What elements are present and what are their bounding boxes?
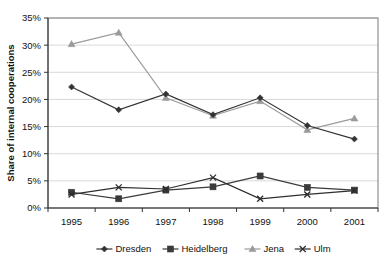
y-tick-label: 25%	[22, 67, 42, 78]
y-axis-tick-labels: 0%5%10%15%20%25%30%35%	[22, 12, 42, 213]
data-point-marker	[163, 91, 169, 97]
y-axis	[44, 18, 48, 208]
y-tick-label: 15%	[22, 121, 42, 132]
data-point-marker	[101, 246, 107, 252]
y-tick-label: 35%	[22, 12, 42, 23]
y-tick-label: 20%	[22, 94, 42, 105]
x-tick-label: 1995	[61, 216, 82, 227]
y-axis-title: Share of internal cooperations	[5, 44, 16, 181]
chart-container: 0%5%10%15%20%25%30%35% 19951996199719981…	[0, 0, 386, 268]
legend-label: Jena	[264, 243, 285, 254]
y-tick-label: 0%	[27, 202, 41, 213]
legend-item-ulm[interactable]: Ulm	[295, 243, 331, 254]
x-tick-label: 1996	[108, 216, 129, 227]
legend-label: Ulm	[314, 243, 331, 254]
y-tick-label: 5%	[27, 175, 41, 186]
legend-item-dresden[interactable]: Dresden	[96, 243, 151, 254]
x-tick-label: 2001	[344, 216, 365, 227]
data-point-marker	[168, 246, 174, 252]
data-point-marker	[351, 136, 357, 142]
legend-item-heidelberg[interactable]: Heidelberg	[163, 243, 228, 254]
data-point-marker	[257, 173, 263, 179]
y-tick-label: 10%	[22, 148, 42, 159]
data-point-marker	[210, 184, 216, 190]
x-tick-label: 1998	[202, 216, 223, 227]
data-point-marker	[351, 115, 358, 121]
x-axis	[48, 208, 378, 212]
y-tick-label: 30%	[22, 40, 42, 51]
x-tick-label: 1999	[250, 216, 271, 227]
x-axis-tick-labels: 1995199619971998199920002001	[61, 216, 365, 227]
legend-label: Dresden	[115, 243, 151, 254]
legend-label: Heidelberg	[182, 243, 228, 254]
data-point-marker	[304, 184, 310, 190]
data-series	[68, 29, 358, 202]
data-point-marker	[115, 29, 122, 35]
data-point-marker	[116, 107, 122, 113]
data-point-marker	[69, 84, 75, 90]
x-tick-label: 2000	[297, 216, 318, 227]
data-point-marker	[304, 122, 310, 128]
series-dresden	[69, 84, 358, 142]
data-point-marker	[116, 196, 122, 202]
line-chart: 0%5%10%15%20%25%30%35% 19951996199719981…	[0, 0, 386, 268]
x-tick-label: 1997	[155, 216, 176, 227]
legend-item-jena[interactable]: Jena	[245, 243, 285, 254]
data-point-marker	[257, 95, 263, 101]
chart-legend: DresdenHeidelbergJenaUlm	[96, 243, 330, 254]
